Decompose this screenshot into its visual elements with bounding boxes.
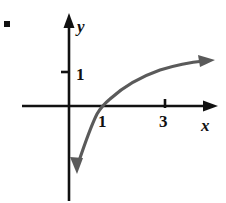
x-axis-arrowhead-icon xyxy=(203,101,218,112)
y-axis-label: y xyxy=(75,17,85,36)
curve-down-arrowhead-icon xyxy=(70,157,83,174)
x-axis-label: x xyxy=(200,116,210,135)
x-tick-label-3: 3 xyxy=(159,112,168,131)
log-curve xyxy=(78,61,204,164)
bullet-marker-icon xyxy=(4,21,10,27)
graph-canvas: y x 1 1 3 xyxy=(0,0,226,203)
curve-right-arrowhead-icon xyxy=(198,55,215,67)
y-axis-arrowhead-icon xyxy=(64,13,75,28)
log-function-graph-figure: y x 1 1 3 xyxy=(0,0,226,203)
x-tick-label-1: 1 xyxy=(98,112,107,131)
y-tick-label-1: 1 xyxy=(76,65,85,84)
